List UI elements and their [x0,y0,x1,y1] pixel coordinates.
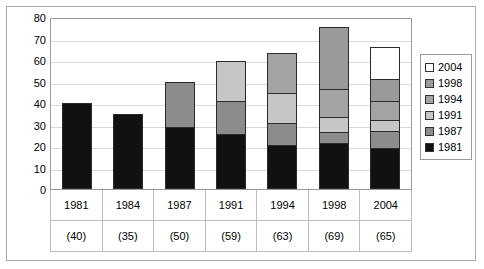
x-axis-column: 1987(50) [154,190,206,251]
x-axis-total-label: (69) [309,220,360,251]
legend-item[interactable]: 1994 [425,91,468,107]
x-axis-column: 1984(35) [103,190,155,251]
bar-segment[interactable] [267,53,297,94]
legend-swatch-icon [425,143,434,152]
x-axis-column: 2004(65) [360,190,412,251]
x-axis-total-label: (63) [257,220,308,251]
bar-slot [257,19,308,189]
x-axis-column: 1998(69) [309,190,361,251]
stacked-bar[interactable] [370,47,400,189]
bar-segment[interactable] [113,114,143,189]
x-axis-label-table: 1981(40)1984(35)1987(50)1991(59)1994(63)… [50,190,412,252]
y-axis: 01020304050607080 [14,18,46,190]
stacked-bar[interactable] [216,61,246,189]
x-axis-total-label: (59) [206,220,257,251]
y-axis-tick-label: 20 [14,142,46,153]
plot-area [50,18,412,190]
legend-swatch-icon [425,95,434,104]
x-axis-category-label: 1994 [257,190,308,220]
y-axis-tick-label: 0 [14,185,46,196]
x-axis-total-label: (40) [51,220,102,251]
bars-layer [51,19,411,189]
x-axis-total-label: (50) [154,220,205,251]
x-axis-category-label: 1987 [154,190,205,220]
stacked-bar[interactable] [165,82,195,189]
y-axis-tick-label: 60 [14,56,46,67]
bar-segment[interactable] [319,143,349,189]
bar-slot [154,19,205,189]
bar-segment[interactable] [370,79,400,101]
bar-segment[interactable] [267,93,297,123]
legend-swatch-icon [425,79,434,88]
legend-item-label: 1994 [438,94,462,105]
bar-segment[interactable] [165,82,195,127]
bar-slot [360,19,411,189]
x-axis-column: 1981(40) [51,190,103,251]
bar-segment[interactable] [216,61,246,101]
bar-segment[interactable] [370,120,400,131]
bar-segment[interactable] [319,27,349,89]
bar-segment[interactable] [216,134,246,189]
y-axis-tick-label: 30 [14,120,46,131]
stacked-bar-chart: 01020304050607080 1981(40)1984(35)1987(5… [0,0,484,269]
stacked-bar[interactable] [113,114,143,189]
legend-item-label: 1987 [438,126,462,137]
legend-item[interactable]: 1998 [425,75,468,91]
y-axis-tick-label: 80 [14,13,46,24]
y-axis-tick-label: 70 [14,34,46,45]
legend-item-label: 2004 [438,62,462,73]
bar-slot [51,19,102,189]
bar-slot [205,19,256,189]
x-axis-column: 1991(59) [206,190,258,251]
bar-segment[interactable] [267,145,297,189]
legend-item-label: 1998 [438,78,462,89]
legend-item[interactable]: 2004 [425,59,468,75]
x-axis-category-label: 1998 [309,190,360,220]
bar-segment[interactable] [319,89,349,117]
y-axis-tick-label: 50 [14,77,46,88]
legend-item[interactable]: 1991 [425,107,468,123]
legend: 200419981994199119871981 [420,54,472,160]
bar-segment[interactable] [165,127,195,189]
y-axis-tick-label: 10 [14,163,46,174]
bar-segment[interactable] [370,47,400,79]
bar-segment[interactable] [370,131,400,148]
x-axis-total-label: (65) [360,220,411,251]
legend-swatch-icon [425,127,434,136]
legend-item[interactable]: 1981 [425,139,468,155]
x-axis-column: 1994(63) [257,190,309,251]
y-axis-tick-label: 40 [14,99,46,110]
x-axis-category-label: 1981 [51,190,102,220]
bar-segment[interactable] [216,101,246,134]
legend-swatch-icon [425,111,434,120]
legend-item-label: 1991 [438,110,462,121]
stacked-bar[interactable] [267,53,297,190]
legend-item[interactable]: 1987 [425,123,468,139]
stacked-bar[interactable] [319,27,349,189]
x-axis-category-label: 1991 [206,190,257,220]
bar-segment[interactable] [370,148,400,189]
bar-segment[interactable] [370,101,400,120]
bar-segment[interactable] [319,132,349,143]
x-axis-total-label: (35) [103,220,154,251]
stacked-bar[interactable] [62,103,92,189]
bar-segment[interactable] [267,123,297,145]
bar-segment[interactable] [319,117,349,132]
x-axis-category-label: 1984 [103,190,154,220]
legend-item-label: 1981 [438,142,462,153]
bar-slot [308,19,359,189]
legend-swatch-icon [425,63,434,72]
bar-segment[interactable] [62,103,92,189]
x-axis-category-label: 2004 [360,190,411,220]
bar-slot [102,19,153,189]
